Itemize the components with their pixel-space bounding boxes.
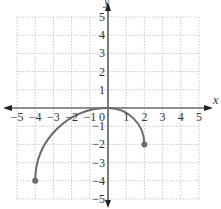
y-tick: 1 [99,83,105,97]
y-axis-label: y [103,0,110,8]
y-tick: −1 [92,119,105,133]
x-tick: 2 [141,110,147,124]
x-tick: −4 [29,110,42,124]
y-tick: −4 [92,174,105,188]
y-tick: 5 [99,10,105,24]
x-tick: −2 [65,110,78,124]
y-tick: −2 [92,137,105,151]
y-tick: 2 [99,65,105,79]
x-tick: −3 [47,110,60,124]
y-tick: −3 [92,156,105,170]
x-tick: 4 [178,110,184,124]
endpoint-right [141,141,147,147]
x-tick: 3 [160,110,166,124]
x-axis-label: x [212,93,219,107]
y-tick: 3 [99,46,105,60]
x-tick: 5 [196,110,202,124]
x-tick-labels: −5 −4 −3 −2 −1 0 1 2 3 4 5 [11,110,202,124]
graph: x y −5 −4 −3 −2 −1 0 1 2 3 4 5 5 4 3 2 1… [0,0,221,209]
x-tick: −5 [11,110,24,124]
x-tick: 1 [123,110,129,124]
y-tick: −5 [92,192,105,206]
y-tick: 4 [99,28,105,42]
endpoint-left [32,178,38,184]
x-axis-right-arrow-icon [204,105,213,111]
y-axis-down-arrow-icon [105,200,111,208]
